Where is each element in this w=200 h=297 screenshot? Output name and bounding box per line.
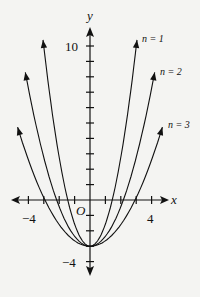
legend-n3: n = 3 xyxy=(168,119,190,130)
axes xyxy=(11,27,169,276)
curve-arrow-icon xyxy=(24,72,30,81)
curve-arrow-icon xyxy=(133,40,139,48)
legend-n1: n = 1 xyxy=(142,33,164,44)
y-tick-label-10: 10 xyxy=(65,39,78,54)
curve-arrow-icon xyxy=(157,127,163,136)
x-tick-label-neg4: −4 xyxy=(22,211,36,226)
legend-n2: n = 2 xyxy=(160,66,182,77)
x-tick-label-4: 4 xyxy=(147,211,154,226)
curve-arrow-icon xyxy=(41,40,47,48)
parabola-family-chart: y x O 10 −4 −4 4 n = 1 n = 2 n = 3 xyxy=(0,0,200,297)
origin-label: O xyxy=(76,203,86,218)
curve-arrow-icon xyxy=(150,72,156,81)
y-tick-label-neg4: −4 xyxy=(62,255,76,270)
curve-arrow-icon xyxy=(17,127,23,136)
y-axis-label: y xyxy=(85,8,93,23)
x-axis-label: x xyxy=(170,192,177,207)
